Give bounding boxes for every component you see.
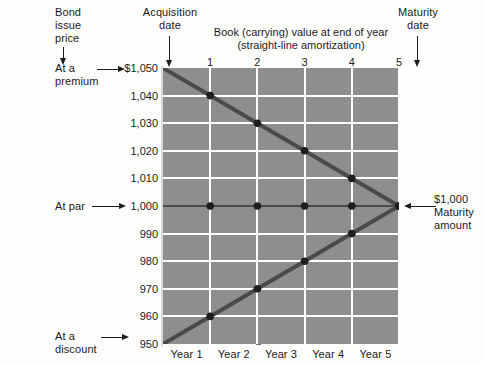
at-a-discount-label: At a discount [55,330,97,356]
chart-title-line-1: Book (carrying) value at end of year [186,26,416,39]
x-axis-year-number: 4 [340,56,364,68]
series-line [163,68,399,206]
y-axis-tick-label: 960 [98,311,158,322]
y-axis-tick-label: 1,020 [98,146,158,157]
data-point-marker [254,285,262,293]
x-axis-year-label: Year 1 [161,348,213,361]
data-point-marker [348,202,356,210]
maturity-amount-value: $1,000 [434,193,468,206]
series-lines [163,68,399,344]
data-point-marker [301,147,309,155]
y-axis-tick-label: 1,030 [98,118,158,129]
bond-carrying-value-figure: Bond issue price Acquisition date Maturi… [0,0,485,365]
y-axis-tick-label: 950 [98,339,158,350]
data-point-marker [301,257,309,265]
x-axis-year-number: 3 [293,56,317,68]
y-axis-tick-label: 1,010 [98,173,158,184]
data-point-marker [206,313,214,321]
x-axis-year-label: Year 4 [302,348,354,361]
y-axis-tick-mark [256,344,261,345]
x-axis-year-label: Year 2 [208,348,260,361]
at-par-label: At par [55,200,85,213]
bond-issue-price-label: Bond issue price [55,6,81,45]
maturity-date-arrow-icon [417,36,418,61]
y-axis-tick-label: 1,040 [98,91,158,102]
acquisition-date-arrow-icon [169,36,170,61]
y-axis-tick-label: 970 [98,284,158,295]
x-axis-year-label: Year 5 [349,348,401,361]
bond-issue-price-arrow-icon [63,47,64,59]
series-line [163,206,399,344]
data-point-marker [348,230,356,238]
y-axis-tick-label: 980 [98,256,158,267]
chart-title-line-2: (straight-line amortization) [186,39,416,52]
data-point-marker [206,92,214,100]
maturity-amount-arrow-icon [410,206,436,207]
x-axis-year-number: 2 [245,56,269,68]
x-axis-year-number: 5 [387,56,411,68]
data-point-marker [254,119,262,127]
at-a-premium-label: At a premium [55,62,99,88]
x-axis-year-number: 1 [198,56,222,68]
data-point-marker [254,202,262,210]
y-axis-tick-labels: $1,0501,0401,0301,0201,0101,000990980970… [96,0,158,365]
y-axis-tick-label: 990 [98,229,158,240]
x-axis-year-label: Year 3 [255,348,307,361]
data-point-marker [301,202,309,210]
maturity-amount-label: Maturity amount [434,206,474,232]
y-axis-tick-label: $1,050 [98,63,158,74]
data-point-marker [348,175,356,183]
plot-area [163,68,399,344]
data-point-marker [206,202,214,210]
y-axis-tick-label: 1,000 [98,201,158,212]
chart-title: Book (carrying) value at end of year (st… [186,26,416,52]
